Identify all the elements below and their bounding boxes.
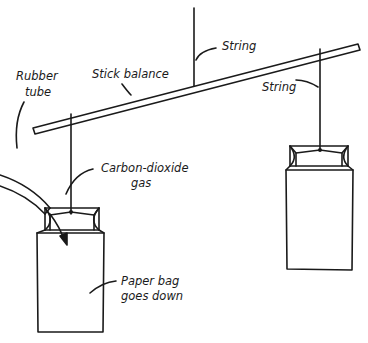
right-paper-bag — [286, 146, 353, 270]
co2-leader — [66, 169, 93, 194]
rubber-tube — [0, 175, 50, 214]
stick-balance-diagram: String Stick balance String Rubber tube … — [0, 0, 368, 343]
gas-arrow-head — [60, 233, 67, 245]
stick-balance-leader — [122, 84, 131, 95]
label-stick-balance: Stick balance — [92, 68, 169, 81]
rubber-tube-leader — [16, 102, 24, 148]
label-string-right: String — [262, 81, 296, 94]
string-right-leader — [296, 80, 318, 87]
label-co2-line2: gas — [131, 177, 151, 190]
label-paper-bag-line1: Paper bag — [121, 275, 179, 288]
label-rubber-tube-line1: Rubber — [16, 70, 58, 83]
label-rubber-tube-line2: tube — [25, 86, 51, 99]
label-co2-line1: Carbon-dioxide — [101, 162, 189, 175]
string-top-leader — [196, 48, 216, 60]
left-paper-bag — [37, 208, 104, 332]
label-paper-bag-line2: goes down — [121, 290, 183, 303]
label-string-top: String — [222, 40, 256, 53]
